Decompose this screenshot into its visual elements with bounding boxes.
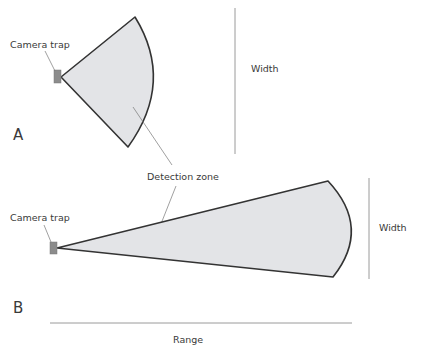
camera-trap-icon-a xyxy=(54,70,61,83)
range-label: Range xyxy=(173,334,203,345)
panel-b: Camera trap Width Range B xyxy=(10,178,407,345)
panel-a: Camera trap Width A xyxy=(10,8,279,154)
camera-label-b: Camera trap xyxy=(10,212,70,223)
camera-leader-a xyxy=(45,51,55,71)
panel-letter-b: B xyxy=(13,299,23,317)
width-label-b: Width xyxy=(379,222,407,233)
camera-leader-b xyxy=(44,225,51,242)
panel-letter-a: A xyxy=(13,126,24,144)
width-label-a: Width xyxy=(251,63,279,74)
detection-zone-a xyxy=(61,17,153,147)
camera-label-a: Camera trap xyxy=(10,39,70,50)
detection-leader-a xyxy=(133,107,172,165)
detection-zone-b xyxy=(57,181,351,277)
camera-trap-icon-b xyxy=(50,242,57,254)
camera-trap-diagram: Camera trap Width A Detection zone Camer… xyxy=(0,0,423,354)
detection-zone-label: Detection zone xyxy=(147,171,219,182)
